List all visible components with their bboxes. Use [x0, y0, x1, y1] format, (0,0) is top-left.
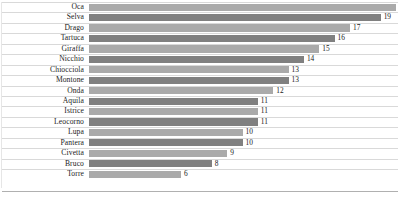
value-label: 10: [246, 127, 253, 137]
category-label: Bruco: [0, 159, 86, 169]
bar-track: 15: [89, 44, 396, 54]
bar-track: 10: [89, 127, 396, 137]
value-label: 14: [307, 54, 314, 64]
category-label: Giraffa: [0, 44, 86, 54]
value-label: 13: [292, 65, 299, 75]
category-label: Leocorno: [0, 117, 86, 127]
category-label: Drago: [0, 23, 86, 33]
bar-lupa: [89, 129, 243, 136]
category-label: Pantera: [0, 138, 86, 148]
bar-chiocciola: [89, 66, 289, 73]
bar-montone: [89, 77, 289, 84]
value-label: 13: [292, 75, 299, 85]
bar-track: 11: [89, 106, 396, 116]
value-label: 10: [246, 138, 253, 148]
bar-onda: [89, 87, 273, 94]
value-label: 19: [384, 12, 391, 22]
chart-row: Lupa10: [0, 127, 398, 137]
horizontal-bar-chart: Oca20Selva19Drago17Tartuca16Giraffa15Nic…: [0, 0, 398, 198]
category-label: Nicchio: [0, 54, 86, 64]
chart-row: Selva19: [0, 12, 398, 22]
chart-row: Onda12: [0, 86, 398, 96]
category-label: Tartuca: [0, 33, 86, 43]
chart-row: Nicchio14: [0, 54, 398, 64]
value-label: 15: [322, 44, 329, 54]
bar-istrice: [89, 108, 258, 115]
chart-row: Leocorno11: [0, 117, 398, 127]
bar-oca: [89, 4, 396, 11]
bar-civetta: [89, 150, 227, 157]
chart-row: Torre6: [0, 169, 398, 179]
plot-area: Oca20Selva19Drago17Tartuca16Giraffa15Nic…: [0, 2, 398, 190]
category-label: Selva: [0, 12, 86, 22]
category-label: Lupa: [0, 127, 86, 137]
bar-track: 16: [89, 33, 396, 43]
category-label: Chiocciola: [0, 65, 86, 75]
category-label: Onda: [0, 86, 86, 96]
value-label: 12: [276, 86, 283, 96]
category-label: Oca: [0, 2, 86, 12]
bar-aquila: [89, 98, 258, 105]
category-label: Montone: [0, 75, 86, 85]
bar-track: 12: [89, 86, 396, 96]
bar-track: 17: [89, 23, 396, 33]
chart-row: Chiocciola13: [0, 65, 398, 75]
bar-bruco: [89, 160, 212, 167]
bar-track: 20: [89, 2, 396, 12]
bar-track: 13: [89, 75, 396, 85]
chart-row: Oca20: [0, 2, 398, 12]
bar-track: 19: [89, 12, 396, 22]
value-label: 11: [261, 106, 268, 116]
bar-selva: [89, 14, 381, 21]
chart-row: Giraffa15: [0, 44, 398, 54]
category-label: Istrice: [0, 106, 86, 116]
bar-track: 9: [89, 148, 396, 158]
value-label: 11: [261, 96, 268, 106]
chart-row: Aquila11: [0, 96, 398, 106]
bar-giraffa: [89, 45, 319, 52]
chart-row: Pantera10: [0, 138, 398, 148]
category-label: Civetta: [0, 148, 86, 158]
category-label: Aquila: [0, 96, 86, 106]
bar-drago: [89, 24, 350, 31]
bar-nicchio: [89, 56, 304, 63]
chart-row: Montone13: [0, 75, 398, 85]
chart-row: Istrice11: [0, 106, 398, 116]
bar-pantera: [89, 139, 243, 146]
chart-row: Civetta9: [0, 148, 398, 158]
bar-track: 11: [89, 117, 396, 127]
value-label: 16: [338, 33, 345, 43]
chart-row: Tartuca16: [0, 33, 398, 43]
bar-track: 13: [89, 65, 396, 75]
bar-track: 11: [89, 96, 396, 106]
value-label: 11: [261, 117, 268, 127]
chart-row: Drago17: [0, 23, 398, 33]
bar-track: 8: [89, 159, 396, 169]
value-label: 8: [215, 159, 219, 169]
bar-track: 14: [89, 54, 396, 64]
value-label: 9: [230, 148, 234, 158]
bar-track: 6: [89, 169, 396, 179]
chart-row: Bruco8: [0, 159, 398, 169]
x-axis-line: [2, 191, 398, 192]
bar-tartuca: [89, 35, 335, 42]
category-label: Torre: [0, 169, 86, 179]
value-label: 17: [353, 23, 360, 33]
bar-leocorno: [89, 118, 258, 125]
bar-torre: [89, 171, 181, 178]
bar-track: 10: [89, 138, 396, 148]
value-label: 6: [184, 169, 188, 179]
